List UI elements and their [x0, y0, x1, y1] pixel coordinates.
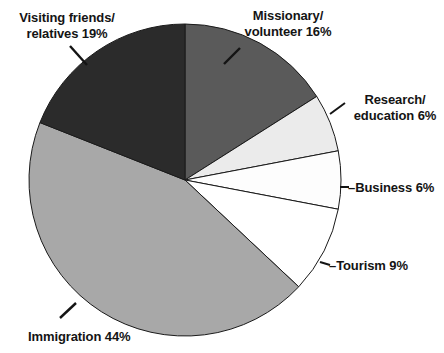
pie-label-research-education: Research/ education 6% [348, 92, 442, 123]
pie-label-visiting-friends: Visiting friends/ relatives 19% [4, 10, 130, 41]
pie-label-missionary-volunteer: Missionary/ volunteer 16% [218, 8, 358, 39]
pie-chart-figure: Visiting friends/ relatives 19% Missiona… [0, 0, 444, 353]
pie-label-business: –Business 6% [348, 180, 442, 196]
pie-chart-canvas [0, 0, 444, 353]
leader-line-immigration [60, 303, 76, 318]
leader-line-research [330, 103, 345, 114]
leader-line-visiting [70, 46, 87, 65]
pie-label-immigration: Immigration 44% [28, 329, 178, 345]
pie-label-tourism: –Tourism 9% [329, 258, 441, 274]
